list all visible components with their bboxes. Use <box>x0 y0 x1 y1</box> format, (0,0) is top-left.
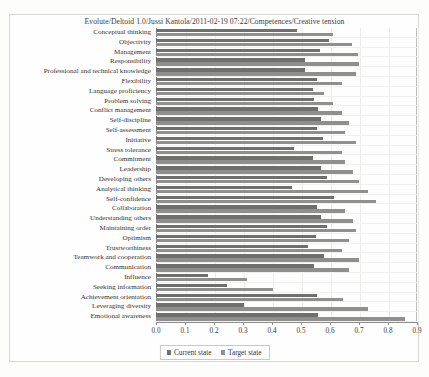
bar-current-state <box>156 166 321 169</box>
x-axis-line <box>156 322 417 323</box>
x-tick-label: 0.8 <box>384 327 393 335</box>
bar-current-state <box>156 303 244 306</box>
bar-current-state <box>156 235 316 238</box>
category-label: Conflict management <box>8 106 154 116</box>
bar-current-state <box>156 186 292 189</box>
x-tick-mark <box>214 322 215 325</box>
chart-legend: Current state Target state <box>159 345 269 360</box>
x-tick-mark <box>417 322 418 325</box>
category-label: Stress tolerance <box>8 146 154 156</box>
bar-current-state <box>156 156 313 159</box>
x-tick-label: 0.2 <box>210 327 219 335</box>
bar-current-state <box>156 127 317 130</box>
bar-target-state <box>156 121 349 124</box>
bar-target-state <box>156 288 273 291</box>
bar-row <box>156 97 417 107</box>
category-label: Understanding others <box>8 214 154 224</box>
x-tick-label: 0.5 <box>297 327 306 335</box>
x-tick-mark <box>301 322 302 325</box>
bar-target-state <box>156 268 349 271</box>
category-label: Optimism <box>8 234 154 244</box>
category-label: Professional and technical knowledge <box>8 67 154 77</box>
x-tick-label: 0.0 <box>152 327 161 335</box>
chart-title: Evolute/Deltoid 1.0/Jussi Kantola/2011-0… <box>0 17 429 26</box>
bar-row <box>156 224 417 234</box>
bar-row <box>156 302 417 312</box>
bar-target-state <box>156 62 359 65</box>
bar-current-state <box>156 274 208 277</box>
category-label: Responsibility <box>8 57 154 67</box>
category-label: Teamwork and cooperation <box>8 253 154 263</box>
bar-target-state <box>156 317 405 320</box>
bar-row <box>156 293 417 303</box>
bar-target-state <box>156 219 353 222</box>
bar-row <box>156 38 417 48</box>
bar-target-state <box>156 141 356 144</box>
legend-label-target: Target state <box>228 348 262 357</box>
x-tick-label: 0.4 <box>268 327 277 335</box>
bar-row <box>156 312 417 322</box>
bar-current-state <box>156 117 321 120</box>
bar-target-state <box>156 82 342 85</box>
bar-current-state <box>156 107 318 110</box>
bar-target-state <box>156 102 333 105</box>
x-tick-label: 0.7 <box>355 327 364 335</box>
x-tick-label: 0.9 <box>413 327 422 335</box>
bar-current-state <box>156 88 313 91</box>
chart-container: Evolute/Deltoid 1.0/Jussi Kantola/2011-0… <box>0 0 429 377</box>
bar-row <box>156 204 417 214</box>
bar-target-state <box>156 190 368 193</box>
category-label: Language proficiency <box>8 87 154 97</box>
bar-row <box>156 77 417 87</box>
bar-row <box>156 165 417 175</box>
bar-current-state <box>156 225 327 228</box>
bar-target-state <box>156 229 356 232</box>
category-label: Initiative <box>8 136 154 146</box>
bar-target-state <box>156 160 345 163</box>
category-label: Problem solving <box>8 97 154 107</box>
category-label: Maintaining order <box>8 224 154 234</box>
bar-row <box>156 283 417 293</box>
bar-current-state <box>156 215 321 218</box>
category-label: Flexibility <box>8 77 154 87</box>
x-tick-mark <box>388 322 389 325</box>
category-label: Trustworthiness <box>8 244 154 254</box>
category-label: Management <box>8 48 154 58</box>
legend-swatch-target-icon <box>220 350 225 355</box>
legend-label-current: Current state <box>174 348 212 357</box>
bar-row <box>156 263 417 273</box>
bar-row <box>156 195 417 205</box>
bar-target-state <box>156 249 342 252</box>
bar-row <box>156 87 417 97</box>
bar-target-state <box>156 298 343 301</box>
bar-row <box>156 214 417 224</box>
x-tick-mark <box>156 322 157 325</box>
category-label: Analytical thinking <box>8 185 154 195</box>
bar-target-state <box>156 131 345 134</box>
bar-target-state <box>156 180 359 183</box>
bar-current-state <box>156 39 329 42</box>
x-tick-mark <box>359 322 360 325</box>
category-label: Objectivity <box>8 38 154 48</box>
legend-entry-target: Target state <box>220 348 261 357</box>
bar-current-state <box>156 68 305 71</box>
bar-target-state <box>156 278 247 281</box>
category-label: Seeking information <box>8 283 154 293</box>
category-label: Collaboration <box>8 204 154 214</box>
bar-current-state <box>156 49 320 52</box>
bar-current-state <box>156 294 317 297</box>
bar-row <box>156 136 417 146</box>
bar-target-state <box>156 33 333 36</box>
bar-current-state <box>156 254 324 257</box>
bar-current-state <box>156 313 318 316</box>
bar-row <box>156 175 417 185</box>
bar-row <box>156 155 417 165</box>
bar-current-state <box>156 245 308 248</box>
bar-current-state <box>156 137 323 140</box>
bar-target-state <box>156 170 353 173</box>
legend-entry-current: Current state <box>166 348 211 357</box>
gridline <box>418 28 419 322</box>
bar-target-state <box>156 151 342 154</box>
x-tick-label: 0.6 <box>326 327 335 335</box>
bar-row <box>156 253 417 263</box>
